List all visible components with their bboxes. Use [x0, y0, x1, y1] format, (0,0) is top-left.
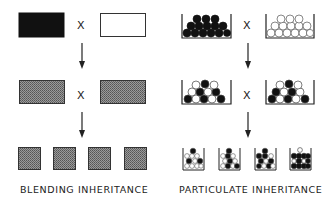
- f2-grey-square: [125, 148, 147, 170]
- parent-black-rectangle: [19, 13, 64, 37]
- cross-symbol: X: [243, 19, 251, 32]
- cross-symbol: X: [77, 89, 85, 102]
- down-arrow-icon: [79, 112, 85, 138]
- down-arrow-icon: [245, 112, 251, 138]
- parent-beaker-white: [266, 14, 314, 38]
- parent-white-rectangle: [101, 14, 146, 37]
- blending-inheritance-label: BLENDING INHERITANCE: [20, 184, 148, 195]
- f1-beaker-mixed: [182, 80, 231, 104]
- f1-grey-rectangle: [20, 81, 65, 104]
- f2-beaker-mostly-white: [183, 148, 204, 170]
- down-arrow-icon: [245, 43, 251, 69]
- f1-beaker-mixed: [266, 80, 314, 104]
- f2-beaker-mostly-black: [290, 148, 311, 170]
- f2-grey-square: [54, 148, 76, 170]
- particulate-inheritance-label: PARTICULATE INHERITANCE: [179, 184, 322, 195]
- down-arrow-icon: [79, 43, 85, 69]
- cross-symbol: X: [243, 89, 251, 102]
- f2-beaker-mixed-dark: [255, 148, 276, 170]
- parent-beaker-black: [182, 14, 231, 38]
- f2-grey-square: [89, 148, 111, 170]
- cross-symbol: X: [77, 19, 85, 32]
- f1-grey-rectangle: [101, 81, 146, 104]
- f2-grey-square: [19, 148, 41, 170]
- f2-beaker-mixed: [219, 148, 240, 170]
